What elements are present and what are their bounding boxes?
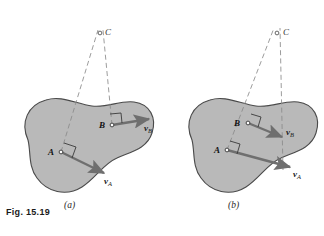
figure-caption: Fig. 15.19 <box>6 207 50 217</box>
panel-a <box>25 30 154 192</box>
point-label-b-A: A <box>214 145 220 155</box>
velocity-label-a-B: vB <box>144 123 152 134</box>
point-label-a-C: C <box>105 27 111 37</box>
point-marker-b-A <box>225 148 229 152</box>
point-marker-a-C <box>98 31 102 35</box>
velocity-subscript: A <box>108 180 112 187</box>
velocity-label-b-A: vA <box>293 169 301 180</box>
velocity-subscript: B <box>290 131 294 138</box>
velocity-subscript: B <box>148 127 152 134</box>
point-marker-b-C <box>275 31 279 35</box>
velocity-label-a-A: vA <box>104 176 112 187</box>
point-label-a-B: B <box>99 120 105 130</box>
panel-a-sublabel: (a) <box>64 200 75 210</box>
point-label-a-A: A <box>48 147 54 157</box>
panel-b <box>189 28 318 192</box>
point-marker-a-A <box>59 150 63 154</box>
figure-15-19-diagram <box>0 0 324 236</box>
velocity-subscript: A <box>297 173 301 180</box>
point-marker-b-B <box>246 121 250 125</box>
velocity-label-b-B: vB <box>286 127 294 138</box>
point-label-b-B: B <box>234 118 240 128</box>
point-marker-a-B <box>110 123 114 127</box>
point-label-b-C: C <box>283 27 289 37</box>
rigid-body-shape-a <box>25 99 154 193</box>
panel-b-sublabel: (b) <box>228 200 239 210</box>
